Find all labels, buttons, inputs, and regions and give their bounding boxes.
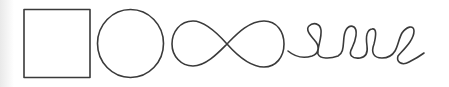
circle-shape: Circle	[98, 10, 164, 78]
infinity-shape: Infinity loop	[172, 21, 284, 67]
shapes-diagram: Square Circle Infinity loop Looped line	[0, 0, 449, 87]
square-shape: Square	[24, 10, 90, 78]
looped-line-shape: Looped line	[288, 24, 424, 64]
